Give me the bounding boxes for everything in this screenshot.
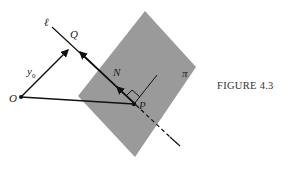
label-line-l: ℓ bbox=[44, 17, 49, 28]
label-P: P bbox=[139, 100, 146, 111]
plane-pi bbox=[78, 11, 196, 157]
label-O: O bbox=[9, 93, 17, 104]
point-P bbox=[132, 102, 136, 106]
label-y0: y0 bbox=[27, 66, 35, 80]
point-O bbox=[19, 95, 23, 99]
label-N: N bbox=[113, 67, 120, 78]
figure-caption: FIGURE 4.3 bbox=[217, 80, 274, 91]
label-Q: Q bbox=[70, 29, 78, 40]
label-pi: π bbox=[182, 68, 188, 79]
